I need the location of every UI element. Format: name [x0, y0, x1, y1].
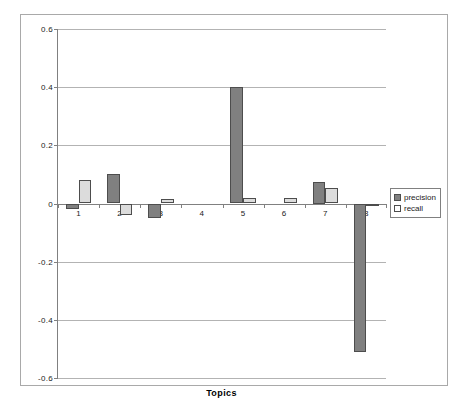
bar-recall-1[interactable]	[79, 180, 92, 203]
bar-precision-3[interactable]	[148, 204, 161, 219]
bar-precision-2[interactable]	[107, 174, 120, 203]
gridline	[58, 262, 386, 263]
x-axis-title: Topics	[57, 388, 386, 398]
plot-area: 12345678	[57, 29, 386, 378]
legend-label-precision: precision	[404, 192, 436, 203]
legend-label-recall: recall	[404, 203, 423, 214]
bar-precision-8[interactable]	[354, 204, 367, 352]
y-axis-tick-label: -0.2	[9, 257, 53, 266]
x-axis-category-label: 1	[76, 209, 81, 218]
bar-recall-5[interactable]	[243, 198, 256, 204]
legend-swatch-precision-icon	[394, 194, 401, 201]
bar-precision-1[interactable]	[66, 204, 79, 210]
gridline	[58, 145, 386, 146]
gridline	[58, 320, 386, 321]
x-axis-tick-mark	[181, 204, 182, 208]
y-axis-tick-label: 0.4	[9, 83, 53, 92]
x-axis-tick-mark	[305, 204, 306, 208]
y-axis-tick-label: -0.4	[9, 315, 53, 324]
x-axis-tick-mark	[223, 204, 224, 208]
y-axis-tick-label: 0	[9, 199, 53, 208]
y-axis-tick-mark	[54, 378, 58, 379]
bar-recall-7[interactable]	[325, 188, 338, 204]
chart-legend: precision recall	[390, 188, 441, 218]
y-axis-tick-label: 0.6	[9, 25, 53, 34]
legend-item-precision[interactable]: precision	[394, 192, 436, 203]
x-axis-category-label: 4	[200, 209, 205, 218]
bar-recall-2[interactable]	[120, 204, 133, 216]
y-axis-tick-mark	[54, 145, 58, 146]
x-axis-category-label: 5	[241, 209, 246, 218]
x-axis-tick-mark	[264, 204, 265, 208]
chart-container: 0.60.40.20-0.2-0.4-0.6 12345678 Topics p…	[0, 0, 465, 416]
x-axis-category-label: 7	[323, 209, 328, 218]
y-axis-tick-mark	[54, 262, 58, 263]
gridline	[58, 29, 386, 30]
bar-recall-6[interactable]	[284, 198, 297, 204]
bar-recall-8[interactable]	[366, 204, 379, 207]
bar-precision-7[interactable]	[313, 182, 326, 204]
x-axis-tick-mark	[386, 204, 387, 208]
bar-precision-5[interactable]	[230, 87, 243, 203]
x-axis-tick-mark	[58, 204, 59, 208]
gridline	[58, 378, 386, 379]
legend-swatch-recall-icon	[394, 205, 401, 212]
legend-item-recall[interactable]: recall	[394, 203, 436, 214]
y-axis-tick-mark	[54, 29, 58, 30]
y-axis-tick-mark	[54, 320, 58, 321]
x-axis-tick-mark	[346, 204, 347, 208]
x-axis-tick-mark	[140, 204, 141, 208]
bar-recall-3[interactable]	[161, 199, 174, 203]
plot-inner: 12345678	[58, 29, 386, 378]
x-axis-category-label: 6	[282, 209, 287, 218]
gridline	[58, 87, 386, 88]
y-axis-tick-labels: 0.60.40.20-0.2-0.4-0.6	[5, 29, 53, 378]
y-axis-tick-mark	[54, 87, 58, 88]
y-axis-tick-label: -0.6	[9, 374, 53, 383]
y-axis-tick-label: 0.2	[9, 141, 53, 150]
x-axis-tick-mark	[99, 204, 100, 208]
